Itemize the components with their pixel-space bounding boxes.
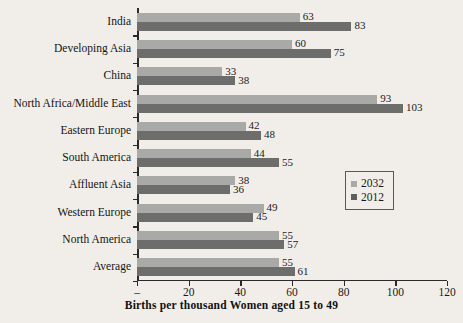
bar-2032 xyxy=(137,122,246,131)
bar-group: 3836 xyxy=(137,172,447,199)
bar-2012 xyxy=(137,49,331,58)
bar-rows: 6383607533389310342484455383649455557556… xyxy=(137,8,447,281)
bar-slot: 36 xyxy=(137,185,447,194)
bar-slot: 57 xyxy=(137,240,447,249)
bar-2032 xyxy=(137,40,292,49)
category-label: Eastern Europe xyxy=(0,125,131,137)
bar-2012 xyxy=(137,22,351,31)
bar-chart: 6383607533389310342484455383649455557556… xyxy=(0,0,463,323)
bar-2012 xyxy=(137,104,403,113)
bar-2032 xyxy=(137,258,279,267)
bar-value-label: 36 xyxy=(230,184,244,195)
bar-group: 4455 xyxy=(137,145,447,172)
bar-2032 xyxy=(137,231,279,240)
x-axis-tick-label: – xyxy=(134,287,140,299)
bar-value-label: 48 xyxy=(261,130,275,141)
bar-value-label: 45 xyxy=(253,212,267,223)
bar-2012 xyxy=(137,213,253,222)
bar-slot: 83 xyxy=(137,22,447,31)
bar-slot: 103 xyxy=(137,104,447,113)
category-label: Affluent Asia xyxy=(0,179,131,191)
x-axis-tick-label: 40 xyxy=(235,287,247,299)
bar-2012 xyxy=(137,131,261,140)
bar-2032 xyxy=(137,67,222,76)
bar-slot: 60 xyxy=(137,40,447,49)
bar-slot: 75 xyxy=(137,49,447,58)
category-label: Developing Asia xyxy=(0,43,131,55)
bar-slot: 55 xyxy=(137,258,447,267)
bar-2012 xyxy=(137,185,230,194)
bar-slot: 63 xyxy=(137,13,447,22)
bar-2032 xyxy=(137,149,251,158)
bar-slot: 38 xyxy=(137,76,447,85)
bar-value-label: 103 xyxy=(403,102,423,113)
bar-slot: 33 xyxy=(137,67,447,76)
category-label: India xyxy=(0,16,131,28)
bar-value-label: 57 xyxy=(284,239,298,250)
bar-2032 xyxy=(137,204,264,213)
bar-group: 93103 xyxy=(137,90,447,117)
bar-group: 4945 xyxy=(137,199,447,226)
bar-2012 xyxy=(137,76,235,85)
bar-value-label: 75 xyxy=(331,48,345,59)
bar-group: 4248 xyxy=(137,117,447,144)
x-axis-tick-label: 80 xyxy=(338,287,350,299)
bar-slot: 42 xyxy=(137,122,447,131)
bar-slot: 49 xyxy=(137,204,447,213)
category-label: China xyxy=(0,70,131,82)
bar-group: 6075 xyxy=(137,35,447,62)
x-axis-tick-label: 120 xyxy=(438,287,455,299)
x-axis-tick-label: 60 xyxy=(286,287,298,299)
bar-value-label: 83 xyxy=(351,20,365,31)
category-label: North Africa/Middle East xyxy=(0,98,131,110)
legend-label-2012: 2012 xyxy=(361,192,384,204)
bar-group: 5561 xyxy=(137,254,447,281)
bar-2032 xyxy=(137,176,235,185)
x-axis-tick-label: 20 xyxy=(183,287,195,299)
bar-group: 5557 xyxy=(137,226,447,253)
bar-group: 6383 xyxy=(137,8,447,35)
legend-item-2012: 2012 xyxy=(351,192,384,204)
legend-swatch-icon-2032 xyxy=(351,181,357,187)
bar-slot: 55 xyxy=(137,158,447,167)
chart-legend: 2032 2012 xyxy=(345,171,394,210)
category-label: Average xyxy=(0,261,131,273)
bar-2032 xyxy=(137,13,300,22)
bar-slot: 93 xyxy=(137,95,447,104)
legend-swatch-icon-2012 xyxy=(351,194,357,200)
bar-value-label: 61 xyxy=(295,266,309,277)
bar-value-label: 55 xyxy=(279,157,293,168)
category-label: North America xyxy=(0,234,131,246)
legend-item-2032: 2032 xyxy=(351,178,384,190)
bar-2032 xyxy=(137,95,377,104)
x-axis-title: Births per thousand Women aged 15 to 49 xyxy=(0,299,463,311)
legend-label-2032: 2032 xyxy=(361,178,384,190)
category-label: South America xyxy=(0,152,131,164)
bar-group: 3338 xyxy=(137,63,447,90)
bar-value-label: 38 xyxy=(235,75,249,86)
x-axis-tick-label: 100 xyxy=(387,287,404,299)
bar-2012 xyxy=(137,240,284,249)
category-label: Western Europe xyxy=(0,207,131,219)
bar-slot: 48 xyxy=(137,131,447,140)
plot-area: 6383607533389310342484455383649455557556… xyxy=(137,8,447,281)
bar-2012 xyxy=(137,158,279,167)
bar-2012 xyxy=(137,267,295,276)
bar-slot: 45 xyxy=(137,213,447,222)
bar-slot: 38 xyxy=(137,176,447,185)
bar-slot: 61 xyxy=(137,267,447,276)
